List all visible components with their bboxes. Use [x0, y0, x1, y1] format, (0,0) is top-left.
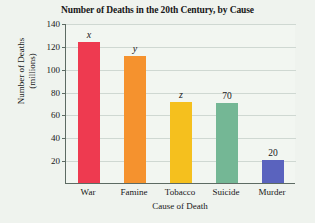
bar-slot: y — [112, 23, 158, 183]
x-axis-title: Cause of Death — [65, 201, 295, 211]
bar-value-label: y — [133, 43, 137, 54]
y-axis-tick-label: 80 — [51, 88, 60, 98]
y-axis-tick-label: 100 — [47, 65, 61, 75]
bar — [78, 42, 100, 183]
chart-figure: Number of Deaths in the 20th Century, by… — [0, 0, 315, 223]
bar — [170, 102, 192, 183]
bar — [216, 103, 238, 183]
bar-value-label: 70 — [222, 91, 232, 101]
x-axis-label-murder: Murder — [245, 187, 299, 197]
bars-group: xyz7020 — [66, 23, 296, 183]
bar-value-label: x — [87, 29, 91, 40]
y-axis-tick-label: 20 — [51, 156, 60, 166]
bar-value-label: 20 — [268, 148, 278, 158]
bar-slot: 70 — [204, 23, 250, 183]
bar-slot: 20 — [250, 23, 296, 183]
bar-slot: z — [158, 23, 204, 183]
y-axis-tick-label: 40 — [51, 133, 60, 143]
y-axis-tick-label: 60 — [51, 110, 60, 120]
y-axis-tick-label: 140 — [47, 19, 61, 29]
chart-title: Number of Deaths in the 20th Century, by… — [0, 5, 315, 15]
bar — [262, 160, 284, 183]
y-axis-title-line2: (millions) — [27, 6, 38, 136]
y-axis-tick-label: 120 — [47, 42, 61, 52]
bar-slot: x — [66, 23, 112, 183]
bar-value-label: z — [179, 89, 183, 100]
bar — [124, 56, 146, 183]
y-axis-title: Number of Deaths (millions) — [16, 6, 38, 136]
y-axis-title-line1: Number of Deaths — [16, 38, 26, 104]
plot-area: 20406080100120140 xyz7020 — [65, 24, 295, 184]
